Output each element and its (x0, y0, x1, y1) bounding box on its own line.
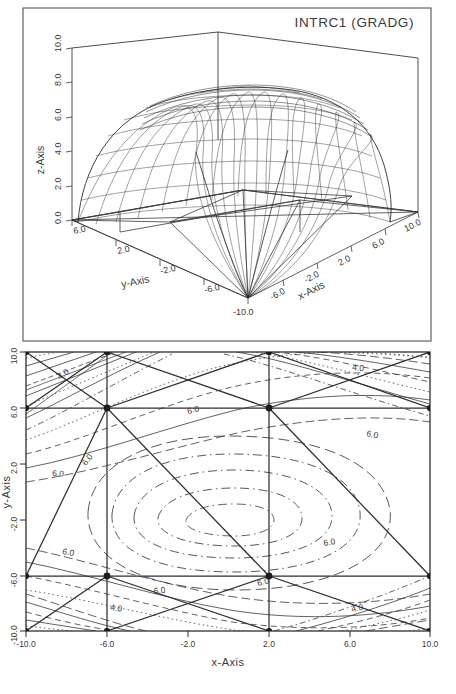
contour-label-2: 6.0 (80, 452, 95, 468)
cy-tick-5: 10.0 (9, 347, 19, 364)
contour-svg: 4.0 6.0 6.0 6.0 6.0 4.0 6.0 4.0 4.0 6.0 … (0, 344, 456, 694)
cx-tick-2: -2.0 (181, 639, 196, 649)
contour-x-axis-label: x-Axis (212, 656, 245, 668)
cy-tick-0: -10.0 (9, 625, 19, 645)
z-tick-0: 0.0 (53, 211, 63, 224)
cx-tick-0: -10.0 (16, 639, 36, 649)
x3d-tick-3: 2.0 (336, 253, 352, 268)
y3d-tick-2: -2.0 (159, 263, 176, 276)
contour-label-11: 6.0 (323, 536, 337, 548)
contour-label-6: 6.0 (366, 428, 380, 440)
contour-group-top-left (26, 352, 172, 430)
z-tick-3: 6.0 (53, 108, 63, 121)
surface-mesh (72, 85, 418, 298)
cx-tick-3: 2.0 (263, 639, 275, 649)
cx-tick-1: -6.0 (100, 639, 115, 649)
y3d-front-tick: -10.0 (233, 307, 254, 317)
z-tick-labels: 0.0 2.0 4.0 6.0 8.0 10.0 (53, 34, 63, 224)
surface-svg: INTRC1 (GRADG) (0, 0, 456, 344)
cx-tick-4: 6.0 (344, 639, 356, 649)
contour-panel: 4.0 6.0 6.0 6.0 6.0 4.0 6.0 4.0 4.0 6.0 … (0, 344, 456, 694)
y3d-tick-3: -6.0 (203, 282, 220, 295)
x3d-tick-1: -6.0 (268, 286, 286, 302)
mesh-diagonals (26, 352, 430, 631)
z-axis-ticks (66, 48, 72, 221)
contour-axis-ticks (20, 352, 430, 637)
cy-tick-3: 2.0 (9, 462, 19, 474)
surface-panel: INTRC1 (GRADG) (0, 0, 456, 344)
y3d-tick-0: 6.0 (72, 224, 86, 236)
contour-label-1: 6.0 (186, 403, 200, 416)
figure-root: INTRC1 (GRADG) (0, 0, 456, 694)
contour-label-3: 6.0 (52, 468, 65, 479)
z-tick-2: 4.0 (53, 142, 63, 155)
contour-group-bottom-left (26, 594, 146, 631)
figure-title: INTRC1 (GRADG) (295, 15, 414, 30)
cx-tick-5: 10.0 (422, 639, 439, 649)
z-tick-5: 10.0 (53, 34, 63, 52)
contour-label-4: 6.0 (62, 546, 76, 558)
cy-tick-4: 6.0 (9, 406, 19, 418)
cy-tick-1: -6.0 (9, 572, 19, 587)
z-tick-1: 2.0 (53, 177, 63, 190)
z-tick-4: 8.0 (53, 73, 63, 86)
x3d-tick-5: 10.0 (402, 217, 422, 234)
contour-x-tick-labels: -10.0 -6.0 -2.0 2.0 6.0 10.0 (16, 639, 438, 649)
contour-group-lower (26, 548, 430, 635)
x3d-tick-4: 6.0 (370, 236, 386, 251)
z-axis-label: z-Axis (34, 146, 46, 175)
contour-y-axis-label: y-Axis (0, 476, 12, 509)
contour-label-5: 4.0 (352, 362, 365, 373)
y3d-tick-1: 2.0 (116, 244, 130, 256)
contour-label-8: 4.0 (110, 602, 123, 614)
contour-label-9: 6.0 (153, 585, 166, 596)
y-axis-label-3d: y-Axis (120, 272, 150, 290)
cy-tick-2: -2.0 (9, 516, 19, 531)
